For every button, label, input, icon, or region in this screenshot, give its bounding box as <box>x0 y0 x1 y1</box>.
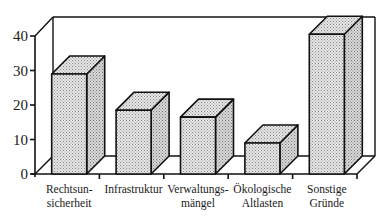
y-tick-label: 40 <box>13 28 28 44</box>
x-category-label: Infrastruktur <box>105 183 163 195</box>
bar <box>309 16 362 174</box>
x-category-label: SonstigeGründe <box>307 183 347 209</box>
x-category-label-line: sicherheit <box>47 197 93 209</box>
bar <box>116 92 169 174</box>
x-category-label-line: Sonstige <box>307 183 347 196</box>
bar-front-face <box>181 117 216 174</box>
bar-front-face <box>309 34 344 174</box>
x-category-label-line: Infrastruktur <box>105 183 163 195</box>
bar-side-face <box>344 16 362 174</box>
left-wall-top-edge <box>35 17 53 36</box>
x-category-label: ÖkologischeAltlasten <box>233 182 291 209</box>
floor-left-edge <box>35 156 53 174</box>
y-tick-label: 30 <box>13 63 28 79</box>
y-tick-label: 20 <box>13 97 28 113</box>
bar-front-face <box>52 74 87 174</box>
bars <box>52 16 363 174</box>
y-tick-label: 0 <box>21 166 29 182</box>
bar <box>181 99 234 174</box>
bar-side-face <box>87 56 105 174</box>
bar-front-face <box>116 110 151 174</box>
y-tick-label: 10 <box>13 132 28 148</box>
x-category-label: Rechtsun-sicherheit <box>46 183 93 209</box>
bar <box>52 56 105 174</box>
x-category-label: Verwaltungs-mängel <box>167 183 228 210</box>
x-category-label-line: Gründe <box>310 197 345 209</box>
x-category-label-line: Altlasten <box>242 197 284 209</box>
category-labels: Rechtsun-sicherheitInfrastrukturVerwaltu… <box>46 182 347 210</box>
x-category-label-line: Rechtsun- <box>46 183 93 195</box>
bar <box>245 125 298 174</box>
bar-front-face <box>245 143 280 174</box>
x-category-label-line: Verwaltungs- <box>167 183 228 196</box>
bar-chart-3d: 010203040 Rechtsun-sicherheitInfrastrukt… <box>0 0 390 221</box>
x-category-label-line: Ökologische <box>233 182 291 196</box>
x-category-label-line: mängel <box>181 197 215 210</box>
